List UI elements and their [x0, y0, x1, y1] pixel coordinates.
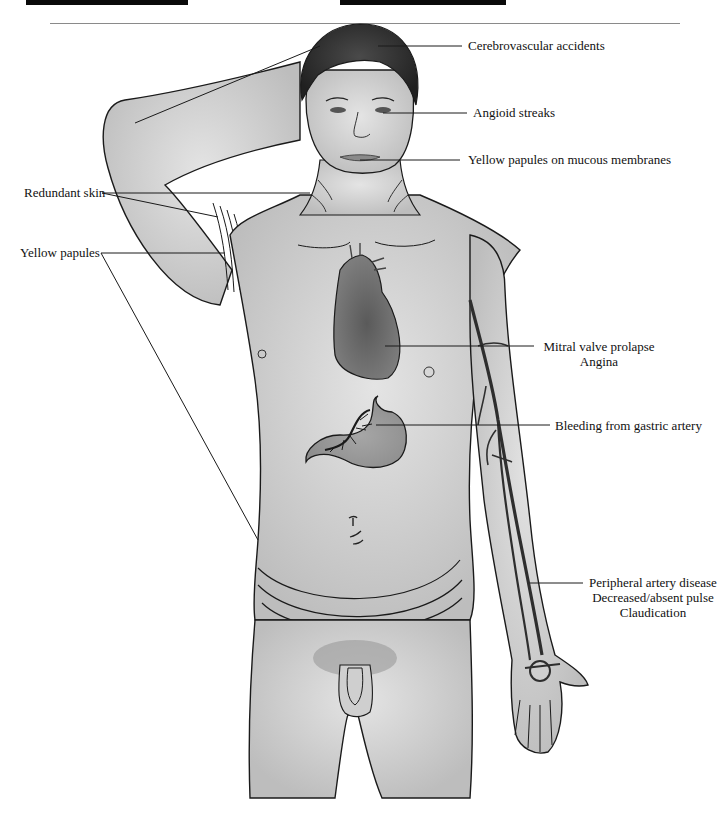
label-cerebrovascular-accidents: Cerebrovascular accidents — [468, 38, 605, 53]
label-decreased-absent-pulse: Decreased/absent pulse — [586, 590, 720, 605]
label-mitral-valve-prolapse: Mitral valve prolapse — [536, 339, 662, 354]
label-angioid-streaks: Angioid streaks — [473, 105, 555, 120]
label-yellow-papules: Yellow papules — [20, 245, 100, 260]
label-yellow-papules-mucous: Yellow papules on mucous membranes — [468, 152, 671, 167]
label-redundant-skin: Redundant skin — [24, 185, 105, 200]
legs — [249, 620, 472, 798]
label-angina: Angina — [536, 354, 662, 369]
anatomical-figure — [0, 0, 724, 823]
label-peripheral: Peripheral artery disease Decreased/abse… — [586, 575, 720, 620]
leader-yellow-waist — [101, 253, 258, 540]
lowered-arm — [470, 235, 588, 753]
label-cardiac: Mitral valve prolapse Angina — [536, 339, 662, 369]
label-gastric-bleeding: Bleeding from gastric artery — [555, 418, 702, 433]
label-claudication: Claudication — [586, 605, 720, 620]
label-peripheral-artery-disease: Peripheral artery disease — [586, 575, 720, 590]
